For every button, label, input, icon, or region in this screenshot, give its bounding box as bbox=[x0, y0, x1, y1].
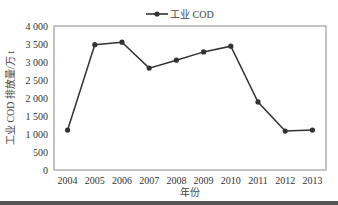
series-line bbox=[68, 42, 313, 131]
data-point-marker bbox=[283, 129, 288, 134]
legend-marker-icon bbox=[154, 11, 159, 16]
data-point-marker bbox=[201, 49, 206, 54]
x-tick-label: 2007 bbox=[139, 175, 159, 186]
plot-frame bbox=[54, 26, 326, 170]
x-tick-label: 2005 bbox=[85, 175, 105, 186]
data-point-marker bbox=[174, 58, 179, 63]
x-tick-label: 2013 bbox=[302, 175, 322, 186]
x-tick-label: 2009 bbox=[194, 175, 214, 186]
line-chart: 工业 COD 05001 0001 5002 0002 5003 0003 50… bbox=[0, 0, 338, 205]
y-tick-label: 3 500 bbox=[26, 39, 49, 50]
y-tick-label: 1 500 bbox=[26, 111, 49, 122]
data-point-marker bbox=[147, 66, 152, 71]
series-industrial-cod bbox=[65, 40, 315, 134]
data-point-marker bbox=[310, 127, 315, 132]
y-axis-title: 工业 COD 排放量/万 t bbox=[4, 51, 16, 145]
y-tick-label: 3 000 bbox=[26, 57, 49, 68]
x-tick-label: 2008 bbox=[166, 175, 186, 186]
y-tick-label: 0 bbox=[43, 165, 48, 176]
y-axis-tick-labels: 05001 0001 5002 0002 5003 0003 5004 000 bbox=[26, 21, 49, 176]
y-tick-label: 4 000 bbox=[26, 21, 49, 32]
legend: 工业 COD bbox=[146, 9, 214, 20]
y-tick-label: 500 bbox=[33, 147, 48, 158]
y-tick-label: 1 000 bbox=[26, 129, 49, 140]
data-point-marker bbox=[92, 42, 97, 47]
bottom-border-band bbox=[0, 201, 338, 205]
data-point-marker bbox=[228, 44, 233, 49]
y-tick-label: 2 500 bbox=[26, 75, 49, 86]
x-tick-label: 2006 bbox=[112, 175, 132, 186]
x-tick-label: 2011 bbox=[248, 175, 268, 186]
data-point-marker bbox=[65, 127, 70, 132]
x-axis-tick-labels: 2004200520062007200820092010201120122013 bbox=[58, 175, 323, 186]
x-tick-label: 2012 bbox=[275, 175, 295, 186]
x-axis-title: 年份 bbox=[180, 186, 200, 198]
x-tick-label: 2010 bbox=[221, 175, 241, 186]
data-point-marker bbox=[255, 99, 260, 104]
legend-label: 工业 COD bbox=[170, 9, 214, 20]
y-tick-label: 2 000 bbox=[26, 93, 49, 104]
x-tick-label: 2004 bbox=[58, 175, 78, 186]
data-point-marker bbox=[119, 40, 124, 45]
